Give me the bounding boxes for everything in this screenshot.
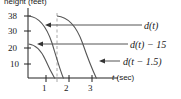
x-tick-label-2: 2 bbox=[64, 84, 69, 93]
curve-label-d-t-minus-15: d(t) − 15 bbox=[130, 40, 166, 50]
height-vs-time-chart: height (feet) t (sec) 38 30 20 10 1 2 3 … bbox=[0, 0, 181, 99]
y-axis-title: height (feet) bbox=[4, 0, 47, 6]
x-axis-title-unit: (sec) bbox=[116, 73, 134, 82]
curve-label-d-t-minus-1p5: d(t − 1.5) bbox=[123, 57, 162, 67]
x-tick-label-1: 1 bbox=[42, 84, 47, 93]
callout-arrowhead-d-t-minus-15 bbox=[37, 41, 43, 46]
curve-label-d-t: d(t) bbox=[144, 21, 158, 31]
callout-arrowhead-d-t-minus-1p5 bbox=[99, 58, 105, 63]
x-tick-label-3: 3 bbox=[88, 84, 93, 93]
callout-arrowhead-d-t bbox=[45, 22, 51, 27]
y-tick-label-20: 20 bbox=[8, 44, 17, 53]
y-tick-label-30: 30 bbox=[8, 27, 17, 36]
curve-d-t-minus-15 bbox=[29, 44, 55, 79]
y-tick-label-10: 10 bbox=[10, 60, 19, 69]
y-tick-label-38: 38 bbox=[8, 12, 17, 21]
x-axis-title: t (sec) bbox=[112, 74, 134, 82]
